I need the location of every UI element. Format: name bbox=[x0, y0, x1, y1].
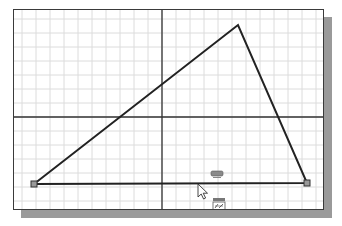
grid bbox=[14, 10, 323, 209]
endpoint-marker-left[interactable] bbox=[31, 181, 37, 187]
parallel-snap-icon bbox=[211, 171, 223, 178]
dimension-snap-icon bbox=[213, 198, 225, 209]
drawing-canvas[interactable] bbox=[13, 9, 324, 210]
sketch-svg[interactable] bbox=[14, 10, 323, 209]
drawing-stage bbox=[0, 0, 342, 226]
endpoint-marker-right[interactable] bbox=[304, 180, 310, 186]
arrow-pointer-icon bbox=[198, 184, 208, 199]
triangle-sketch[interactable] bbox=[34, 25, 307, 184]
